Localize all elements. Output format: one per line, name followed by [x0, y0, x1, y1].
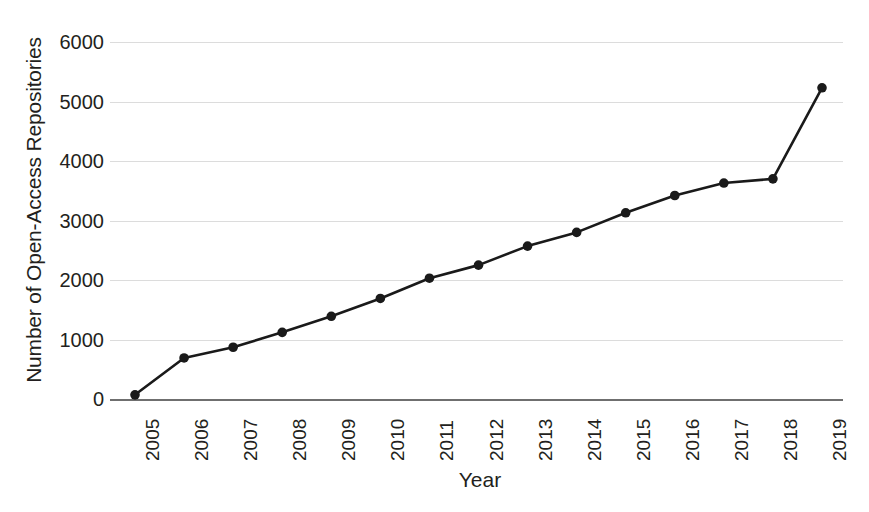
data-series-layer [0, 0, 869, 512]
data-point-marker [277, 328, 287, 338]
data-point-marker [670, 191, 680, 201]
data-point-marker [817, 83, 827, 93]
data-point-marker [228, 342, 238, 352]
data-point-marker [523, 241, 533, 251]
series-line [135, 88, 822, 395]
data-point-marker [719, 178, 729, 188]
data-point-marker [326, 312, 336, 322]
data-point-marker [474, 260, 484, 270]
data-point-marker [130, 390, 140, 400]
data-point-marker [572, 228, 582, 238]
chart-figure: Number of Open-Access Repositories 01000… [0, 0, 869, 512]
data-point-marker [179, 353, 189, 363]
data-point-marker [768, 174, 778, 184]
data-point-marker [425, 273, 435, 283]
data-point-marker [621, 208, 631, 218]
data-point-marker [376, 294, 386, 304]
x-axis-title: Year [135, 468, 825, 492]
